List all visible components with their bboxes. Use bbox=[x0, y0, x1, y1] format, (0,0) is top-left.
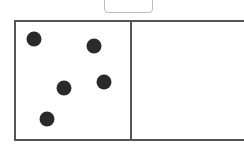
dot-counter bbox=[57, 81, 72, 96]
dot-counter bbox=[87, 39, 102, 54]
frame-divider bbox=[130, 22, 132, 139]
answer-input-box[interactable] bbox=[104, 0, 153, 13]
dot-counter bbox=[97, 75, 112, 90]
dot-counter bbox=[27, 32, 42, 47]
dot-counter bbox=[40, 112, 55, 127]
